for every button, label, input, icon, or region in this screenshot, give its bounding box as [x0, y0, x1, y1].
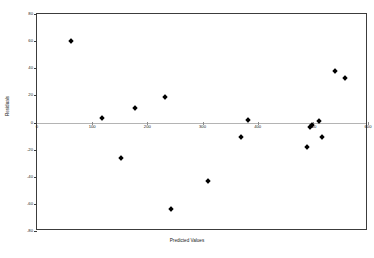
x-axis-tick-label: 200: [144, 125, 151, 130]
x-axis-tick-label: 400: [254, 125, 261, 130]
y-axis-tick: [34, 177, 37, 178]
data-point: [162, 94, 168, 100]
data-point: [132, 105, 138, 111]
x-axis-tick-label: 300: [199, 125, 206, 130]
y-axis-tick: [34, 41, 37, 42]
x-axis-tick-label: 0: [36, 125, 38, 130]
data-point: [238, 135, 244, 141]
x-axis-tick-label: 600: [365, 125, 372, 130]
y-axis-tick-label: -40: [27, 174, 33, 179]
y-axis-tick-label: -20: [27, 147, 33, 152]
data-point: [304, 144, 310, 150]
data-point: [319, 135, 325, 141]
y-axis-tick: [34, 68, 37, 69]
data-point: [168, 206, 174, 212]
y-axis-title: Residuals: [5, 86, 11, 126]
plot-frame: -80-60-40-200204060800100200300400500600: [36, 13, 367, 230]
x-axis-title: Predicted Values: [0, 238, 374, 244]
data-point: [68, 38, 74, 44]
y-axis-tick: [34, 231, 37, 232]
x-axis-tick-label: 100: [89, 125, 96, 130]
y-axis-tick: [34, 204, 37, 205]
residual-plot-figure: Residuals -80-60-40-20020406080010020030…: [0, 0, 374, 258]
data-point: [332, 68, 338, 74]
y-axis-tick-label: -60: [27, 202, 33, 207]
y-axis-tick-label: -80: [27, 229, 33, 234]
y-axis-tick-label: 0: [31, 120, 33, 125]
y-axis-tick: [34, 95, 37, 96]
data-point: [205, 178, 211, 184]
data-point: [99, 116, 105, 122]
y-axis-tick-label: 40: [28, 66, 33, 71]
y-axis-tick: [34, 150, 37, 151]
y-axis-tick-label: 60: [28, 39, 33, 44]
y-axis-tick: [34, 14, 37, 15]
plot-area: -80-60-40-200204060800100200300400500600: [37, 14, 366, 229]
data-point: [118, 155, 124, 161]
y-axis-tick-label: 80: [28, 12, 33, 17]
data-point: [342, 75, 348, 81]
y-axis-tick-label: 20: [28, 93, 33, 98]
